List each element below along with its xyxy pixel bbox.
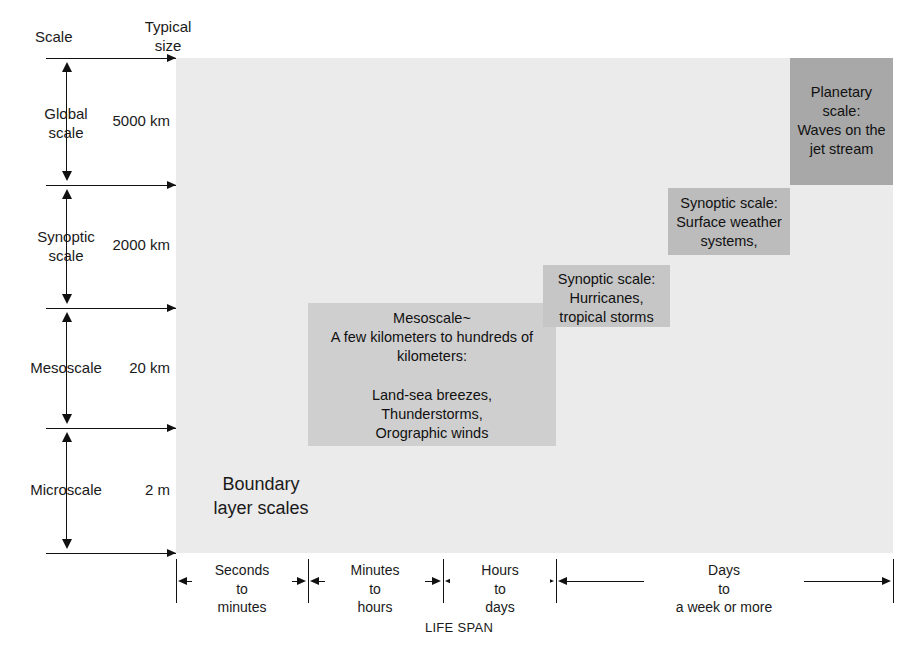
scale-box-hurricane: Synoptic scale: Hurricanes, tropical sto… xyxy=(543,265,670,327)
lifespan-seg1-left-arrow-icon xyxy=(310,577,319,585)
size-label-synoptic: 2000 km xyxy=(100,236,170,253)
lifespan-axis-title: LIFE SPAN xyxy=(0,620,918,635)
scales-of-motion-diagram: Scale Typical size Global scale 5000 km … xyxy=(0,0,918,654)
lifespan-seg0-left-arrow-icon xyxy=(178,577,187,585)
lifespan-seg2-label: Hours to days xyxy=(450,561,550,617)
scale-box-surface-weather: Synoptic scale: Surface weather systems, xyxy=(668,188,790,255)
scale-box-mesoscale: Mesoscale~ A few kilometers to hundreds … xyxy=(308,303,556,446)
lifespan-seg3-right-arrow-icon xyxy=(882,577,891,585)
global-scale-arrow-down-icon xyxy=(62,171,72,181)
size-rule-top xyxy=(46,58,176,59)
microscale-arrow-down-icon xyxy=(62,539,72,549)
size-rule-meso-micro xyxy=(46,428,176,429)
lifespan-seg3-left-arrow-icon xyxy=(558,577,567,585)
lifespan-seg0-right-arrow-icon xyxy=(297,577,306,585)
size-label-mesoscale: 20 km xyxy=(100,359,170,376)
lifespan-seg0-label: Seconds to minutes xyxy=(192,561,292,617)
scale-axis-header: Scale xyxy=(35,28,73,45)
size-rule-global-synoptic-arrow-icon xyxy=(167,181,176,189)
lifespan-tick-1 xyxy=(308,559,309,603)
size-rule-top-arrow-icon xyxy=(167,54,176,62)
scale-box-surface-weather-text: Synoptic scale: Surface weather systems, xyxy=(668,194,790,251)
size-label-microscale: 2 m xyxy=(100,481,170,498)
typical-size-axis-header: Typical size xyxy=(126,18,210,56)
lifespan-tick-4 xyxy=(893,559,894,603)
scale-box-planetary-text: Planetary scale: Waves on the jet stream xyxy=(790,83,893,160)
lifespan-seg1-label: Minutes to hours xyxy=(325,561,425,617)
size-label-global: 5000 km xyxy=(100,112,170,129)
mesoscale-arrow-down-icon xyxy=(62,414,72,424)
scale-box-mesoscale-text: Mesoscale~ A few kilometers to hundreds … xyxy=(308,309,556,443)
boundary-layer-scales-label: Boundary layer scales xyxy=(186,472,336,521)
size-rule-bottom xyxy=(46,553,176,554)
lifespan-tick-2 xyxy=(443,559,444,603)
size-rule-global-synoptic xyxy=(46,185,176,186)
lifespan-seg1-right-arrow-icon xyxy=(432,577,441,585)
size-rule-synoptic-meso-arrow-icon xyxy=(167,304,176,312)
lifespan-tick-0 xyxy=(176,559,177,603)
synoptic-scale-arrow-down-icon xyxy=(62,294,72,304)
lifespan-tick-3 xyxy=(556,559,557,603)
size-rule-bottom-arrow-icon xyxy=(167,549,176,557)
size-rule-meso-micro-arrow-icon xyxy=(167,424,176,432)
scale-box-planetary: Planetary scale: Waves on the jet stream xyxy=(790,58,893,185)
size-rule-synoptic-meso xyxy=(46,308,176,309)
scale-box-hurricane-text: Synoptic scale: Hurricanes, tropical sto… xyxy=(543,270,670,327)
lifespan-seg3-label: Days to a week or more xyxy=(644,561,804,617)
